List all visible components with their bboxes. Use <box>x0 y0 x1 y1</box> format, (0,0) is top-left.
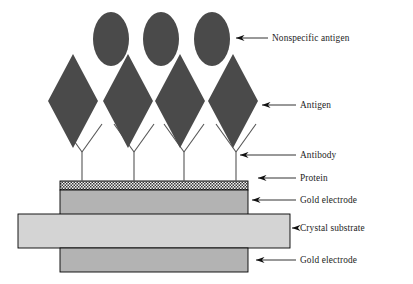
label-gold-electrode-bottom: Gold electrode <box>300 255 357 265</box>
nonspecific-antigen-3 <box>194 12 230 66</box>
diagram-canvas: Nonspecific antigenAntigenAntibodyProtei… <box>0 0 413 284</box>
gold-electrode-bottom <box>60 248 248 272</box>
antibody-1-arm-right <box>82 124 102 152</box>
label-nonspecific-antigen: Nonspecific antigen <box>272 33 350 43</box>
label-crystal-substrate: Crystal substrate <box>300 223 365 233</box>
antigen-2 <box>103 54 153 148</box>
label-gold-electrode-top: Gold electrode <box>300 195 357 205</box>
crystal-substrate <box>18 214 290 248</box>
protein-layer <box>60 181 248 190</box>
biosensor-diagram: Nonspecific antigenAntigenAntibodyProtei… <box>0 0 413 284</box>
nonspecific-antigen-1 <box>93 12 129 66</box>
gold-electrode-top <box>60 190 248 215</box>
label-protein: Protein <box>300 173 328 183</box>
antigen-group <box>48 54 258 148</box>
nonspecific-antigen-group <box>93 12 230 66</box>
nonspecific-antigen-2 <box>143 12 179 66</box>
antigen-4 <box>208 54 258 148</box>
layer-stack <box>18 181 290 272</box>
antigen-1 <box>48 54 98 148</box>
label-antigen: Antigen <box>300 100 331 110</box>
label-antibody: Antibody <box>300 150 337 160</box>
